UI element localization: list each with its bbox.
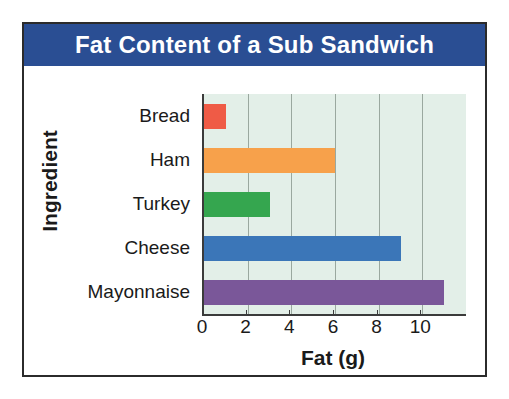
y-axis-tick-label: Turkey xyxy=(64,182,196,226)
x-axis-tick-labels: 0246810 xyxy=(202,316,464,342)
chart-title: Fat Content of a Sub Sandwich xyxy=(75,31,434,59)
x-axis-tick-mark xyxy=(333,310,334,315)
x-axis-tick-label: 4 xyxy=(284,316,295,338)
x-axis-tick-mark xyxy=(377,310,378,315)
x-axis-tick-mark xyxy=(246,310,247,315)
chart-title-banner: Fat Content of a Sub Sandwich xyxy=(24,24,485,66)
y-axis-tick-label: Bread xyxy=(64,94,196,138)
plot-area xyxy=(202,94,466,316)
x-axis-tick-label: 8 xyxy=(371,316,382,338)
bar-row xyxy=(204,182,466,226)
bar-row xyxy=(204,226,466,270)
x-axis-title: Fat (g) xyxy=(202,346,464,370)
x-axis-tick-label: 0 xyxy=(197,316,208,338)
y-axis-tick-labels: BreadHamTurkeyCheeseMayonnaise xyxy=(64,94,196,314)
x-axis-tick-label: 2 xyxy=(240,316,251,338)
bar-row xyxy=(204,138,466,182)
y-axis-tick-label: Cheese xyxy=(64,226,196,270)
chart-body: Ingredient BreadHamTurkeyCheeseMayonnais… xyxy=(24,66,485,375)
y-axis-tick-label: Ham xyxy=(64,138,196,182)
bar-mayonnaise xyxy=(204,280,444,305)
bar-cheese xyxy=(204,236,401,261)
chart-figure: Fat Content of a Sub Sandwich Ingredient… xyxy=(22,22,487,377)
bar-turkey xyxy=(204,192,270,217)
x-axis-tick-label: 10 xyxy=(410,316,431,338)
bar-row xyxy=(204,270,466,314)
y-axis-tick-label: Mayonnaise xyxy=(64,270,196,314)
y-axis-title: Ingredient xyxy=(35,111,65,251)
bar-row xyxy=(204,94,466,138)
x-axis-tick-mark xyxy=(420,310,421,315)
x-axis-tick-mark xyxy=(202,310,203,315)
bar-ham xyxy=(204,148,335,173)
x-axis-tick-label: 6 xyxy=(328,316,339,338)
bar-bread xyxy=(204,104,226,129)
x-axis-tick-mark xyxy=(289,310,290,315)
bars-layer xyxy=(204,94,466,314)
